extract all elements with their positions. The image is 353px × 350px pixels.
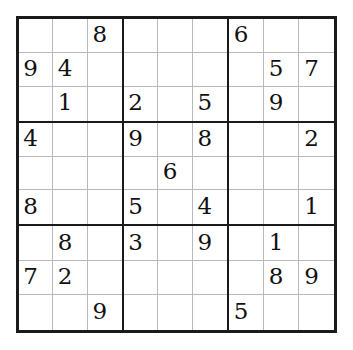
sudoku-cell-r4c1[interactable]: 4: [19, 123, 53, 157]
sudoku-cell-r4c2[interactable]: [53, 123, 87, 157]
sudoku-cell-r5c6[interactable]: [193, 157, 227, 191]
sudoku-digit-r1c3: 8: [93, 23, 108, 46]
sudoku-cell-r2c2[interactable]: 4: [53, 53, 87, 87]
sudoku-cell-r5c8[interactable]: [264, 157, 299, 191]
sudoku-digit-r3c8: 9: [269, 91, 284, 114]
sudoku-cell-r1c6[interactable]: [193, 19, 227, 53]
sudoku-block-r2c3: 21: [229, 123, 334, 227]
sudoku-cell-r8c5[interactable]: [158, 261, 192, 296]
sudoku-cell-r7c7[interactable]: [229, 226, 264, 261]
sudoku-cell-r9c7[interactable]: 5: [229, 295, 264, 330]
sudoku-cell-r5c2[interactable]: [53, 157, 87, 191]
sudoku-cell-r6c5[interactable]: [158, 190, 192, 224]
sudoku-cell-r7c9[interactable]: [299, 226, 334, 261]
sudoku-digit-r6c9: 1: [304, 195, 319, 218]
sudoku-cell-r7c3[interactable]: [88, 226, 122, 261]
sudoku-cell-r2c8[interactable]: 5: [264, 53, 299, 87]
sudoku-cell-r5c7[interactable]: [229, 157, 264, 191]
sudoku-cell-r3c8[interactable]: 9: [264, 87, 299, 121]
sudoku-digit-r2c8: 5: [269, 57, 284, 80]
sudoku-cell-r2c7[interactable]: [229, 53, 264, 87]
sudoku-cell-r7c1[interactable]: [19, 226, 53, 261]
sudoku-digit-r6c4: 5: [128, 195, 143, 218]
sudoku-cell-r8c3[interactable]: [88, 261, 122, 296]
sudoku-digit-r7c2: 8: [58, 231, 73, 254]
sudoku-cell-r9c8[interactable]: [264, 295, 299, 330]
sudoku-digit-r6c1: 8: [23, 195, 38, 218]
sudoku-cell-r8c9[interactable]: 9: [299, 261, 334, 296]
sudoku-cell-r2c1[interactable]: 9: [19, 53, 53, 87]
sudoku-cell-r1c4[interactable]: [124, 19, 158, 53]
sudoku-cell-r2c4[interactable]: [124, 53, 158, 87]
sudoku-cell-r6c7[interactable]: [229, 190, 264, 224]
sudoku-cell-r8c7[interactable]: [229, 261, 264, 296]
sudoku-cell-r8c1[interactable]: 7: [19, 261, 53, 296]
sudoku-cell-r9c5[interactable]: [158, 295, 192, 330]
sudoku-cell-r5c9[interactable]: [299, 157, 334, 191]
sudoku-cell-r1c1[interactable]: [19, 19, 53, 53]
sudoku-cell-r4c7[interactable]: [229, 123, 264, 157]
sudoku-digit-r7c8: 1: [269, 231, 284, 254]
sudoku-cell-r3c5[interactable]: [158, 87, 192, 121]
sudoku-cell-r9c9[interactable]: [299, 295, 334, 330]
sudoku-cell-r2c3[interactable]: [88, 53, 122, 87]
sudoku-cell-r4c3[interactable]: [88, 123, 122, 157]
sudoku-cell-r4c6[interactable]: 8: [193, 123, 227, 157]
sudoku-cell-r6c6[interactable]: 4: [193, 190, 227, 224]
sudoku-digit-r2c9: 7: [304, 57, 319, 80]
sudoku-cell-r4c8[interactable]: [264, 123, 299, 157]
sudoku-cell-r5c1[interactable]: [19, 157, 53, 191]
sudoku-cell-r6c3[interactable]: [88, 190, 122, 224]
sudoku-cell-r9c6[interactable]: [193, 295, 227, 330]
sudoku-cell-r3c6[interactable]: 5: [193, 87, 227, 121]
sudoku-cell-r1c9[interactable]: [299, 19, 334, 53]
sudoku-cell-r4c9[interactable]: 2: [299, 123, 334, 157]
sudoku-cell-r4c4[interactable]: 9: [124, 123, 158, 157]
sudoku-cell-r9c2[interactable]: [53, 295, 87, 330]
sudoku-block-r3c1: 8729: [19, 226, 124, 330]
sudoku-digit-r3c6: 5: [198, 91, 213, 114]
sudoku-cell-r6c8[interactable]: [264, 190, 299, 224]
sudoku-cell-r7c4[interactable]: 3: [124, 226, 158, 261]
sudoku-cell-r9c4[interactable]: [124, 295, 158, 330]
sudoku-cell-r5c5[interactable]: 6: [158, 157, 192, 191]
sudoku-digit-r9c7: 5: [234, 300, 249, 323]
sudoku-cell-r3c1[interactable]: [19, 87, 53, 121]
sudoku-cell-r9c3[interactable]: 9: [88, 295, 122, 330]
sudoku-cell-r7c5[interactable]: [158, 226, 192, 261]
sudoku-cell-r3c9[interactable]: [299, 87, 334, 121]
sudoku-cell-r3c2[interactable]: 1: [53, 87, 87, 121]
sudoku-digit-r3c2: 1: [58, 91, 73, 114]
sudoku-cell-r7c2[interactable]: 8: [53, 226, 87, 261]
sudoku-cell-r6c9[interactable]: 1: [299, 190, 334, 224]
sudoku-cell-r4c5[interactable]: [158, 123, 192, 157]
sudoku-cell-r2c6[interactable]: [193, 53, 227, 87]
sudoku-cell-r5c4[interactable]: [124, 157, 158, 191]
sudoku-cell-r6c4[interactable]: 5: [124, 190, 158, 224]
sudoku-cell-r1c5[interactable]: [158, 19, 192, 53]
sudoku-cell-r2c5[interactable]: [158, 53, 192, 87]
sudoku-cell-r7c6[interactable]: 9: [193, 226, 227, 261]
sudoku-cell-r1c7[interactable]: 6: [229, 19, 264, 53]
sudoku-cell-r1c2[interactable]: [53, 19, 87, 53]
sudoku-cell-r5c3[interactable]: [88, 157, 122, 191]
sudoku-cell-r8c8[interactable]: 8: [264, 261, 299, 296]
sudoku-digit-r8c9: 9: [304, 265, 319, 288]
sudoku-digit-r6c6: 4: [198, 195, 213, 218]
sudoku-cell-r2c9[interactable]: 7: [299, 53, 334, 87]
sudoku-cell-r9c1[interactable]: [19, 295, 53, 330]
sudoku-cell-r6c2[interactable]: [53, 190, 87, 224]
sudoku-cell-r8c2[interactable]: 2: [53, 261, 87, 296]
sudoku-cell-r3c3[interactable]: [88, 87, 122, 121]
sudoku-cell-r1c3[interactable]: 8: [88, 19, 122, 53]
sudoku-digit-r4c6: 8: [198, 127, 213, 150]
sudoku-digit-r9c3: 9: [93, 300, 108, 323]
sudoku-cell-r8c6[interactable]: [193, 261, 227, 296]
sudoku-cell-r3c7[interactable]: [229, 87, 264, 121]
sudoku-digit-r4c9: 2: [304, 127, 319, 150]
sudoku-cell-r8c4[interactable]: [124, 261, 158, 296]
sudoku-cell-r1c8[interactable]: [264, 19, 299, 53]
sudoku-cell-r3c4[interactable]: 2: [124, 87, 158, 121]
sudoku-cell-r7c8[interactable]: 1: [264, 226, 299, 261]
sudoku-cell-r6c1[interactable]: 8: [19, 190, 53, 224]
